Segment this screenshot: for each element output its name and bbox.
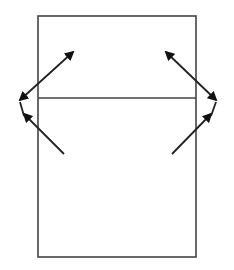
left-lower-arrow-icon <box>24 114 64 154</box>
reflection-diagram <box>0 0 234 270</box>
outer-rectangle <box>38 16 196 257</box>
left-upper-double-arrow-icon <box>20 52 73 100</box>
arrows-group <box>20 52 216 154</box>
left-connector-icon <box>20 102 24 116</box>
right-connector-icon <box>211 102 216 116</box>
right-lower-arrow-icon <box>172 114 211 154</box>
right-upper-double-arrow-icon <box>166 52 216 100</box>
